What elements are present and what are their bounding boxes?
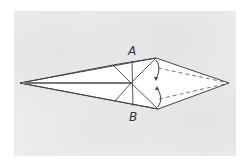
label-b: B [129,110,137,124]
label-a: A [128,44,136,58]
origami-diagram [0,0,248,166]
